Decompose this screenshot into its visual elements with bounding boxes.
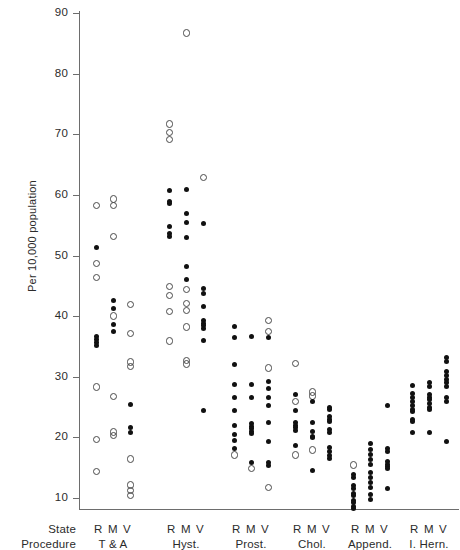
data-point [167,231,172,236]
data-point [265,328,272,335]
data-point [368,485,373,490]
data-point [327,445,332,450]
y-tick-label-text: 90 [40,6,68,18]
data-point [309,392,316,399]
data-point [265,484,272,491]
data-point [166,337,173,344]
x-axis-line [79,509,459,510]
data-point [327,414,332,419]
data-point [293,423,298,428]
data-point [368,457,373,462]
data-point [248,465,255,472]
data-point [111,322,116,327]
data-point [93,383,100,390]
data-point [183,29,190,36]
data-point [327,419,332,424]
data-point [293,420,298,425]
data-point [94,343,99,348]
data-point [127,492,134,499]
data-point [293,443,298,448]
data-point [128,402,133,407]
data-point [167,199,172,204]
data-point [249,431,254,436]
y-tick-label: 40 [36,309,68,323]
data-point [327,430,332,435]
data-point [385,459,390,464]
data-point [167,201,172,206]
data-point [444,369,449,374]
data-point [410,395,415,400]
data-point [249,460,254,465]
data-point [110,432,117,439]
y-axis-title: Per 10,000 population [26,146,38,326]
data-point [166,283,173,290]
data-point [201,338,206,343]
data-point [310,435,315,440]
data-point [232,438,237,443]
data-point [368,452,373,457]
data-point [167,224,172,229]
data-point [232,382,237,387]
data-point [201,321,206,326]
data-point [385,446,390,451]
data-point [232,432,237,437]
data-point [368,470,373,475]
data-point [266,439,271,444]
data-point [292,451,299,458]
data-point [266,463,271,468]
data-point [232,395,237,400]
y-tick-label-text: 10 [40,491,68,503]
data-point [410,417,415,422]
data-point [444,373,449,378]
data-point [184,264,189,269]
data-point [231,451,238,458]
data-point [327,453,332,458]
data-point [110,233,117,240]
data-point [293,425,298,430]
y-axis-line [79,11,80,510]
data-point [385,449,390,454]
data-point [249,395,254,400]
data-point [184,187,189,192]
data-point [310,434,315,439]
y-tick-label-text: 50 [40,249,68,261]
data-point [201,304,206,309]
data-point [128,430,133,435]
data-point [183,286,190,293]
data-point [166,136,173,143]
data-point [183,307,190,314]
data-point [265,317,272,324]
data-point [410,399,415,404]
data-point [292,398,299,405]
data-point [368,492,373,497]
y-tick-mark [73,437,80,438]
data-point [427,401,432,406]
data-point [327,456,332,461]
data-point [427,407,432,412]
y-tick-label-text: 70 [40,127,68,139]
data-point [310,429,315,434]
data-point [444,384,449,389]
data-point [444,380,449,385]
data-point [201,326,206,331]
data-point [385,486,390,491]
data-point [327,405,332,410]
data-point [94,337,99,342]
data-point [110,312,117,319]
data-point [351,493,356,498]
data-point [351,491,356,496]
data-point [266,460,271,465]
data-point [249,424,254,429]
data-point [385,462,390,467]
y-tick-mark [73,377,80,378]
data-point [127,455,134,462]
data-point [293,408,298,413]
data-point [427,405,432,410]
data-point [293,392,298,397]
data-point [351,500,356,505]
x-group-procedure-5: I. Hern. [389,538,460,550]
data-point [385,466,390,471]
data-point [266,420,271,425]
x-group-procedure-0: T & A [73,538,153,550]
data-point [410,430,415,435]
